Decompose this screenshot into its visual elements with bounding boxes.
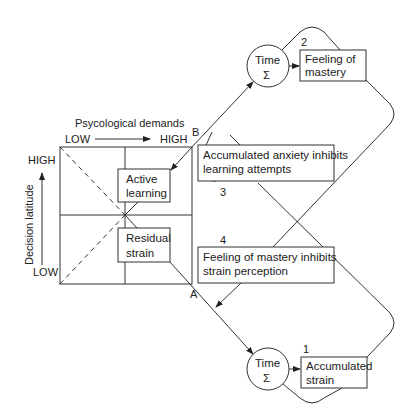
time-node-top-label: Time	[255, 54, 280, 66]
dashed-diagonal-upper	[60, 147, 125, 215]
y-axis-title: Decision latitude	[23, 184, 35, 265]
sigma-icon-top: Σ	[263, 69, 270, 81]
strain-line1: Accumulated	[306, 360, 372, 372]
box3-top-connector	[230, 135, 240, 145]
mastery-line1: Feeling of	[305, 53, 356, 65]
path-b-return-arrow	[171, 147, 192, 170]
mastery-line2: mastery	[305, 66, 346, 78]
active-learning-line1: Active	[126, 173, 157, 185]
y-axis-high-label: HIGH	[28, 154, 56, 166]
dashed-diagonal-lower	[60, 215, 125, 284]
anxiety-number: 3	[220, 186, 226, 198]
x-axis-high-label: HIGH	[160, 133, 188, 145]
path-b-label: B	[192, 126, 199, 138]
box4-inhibit-arrow	[216, 283, 241, 307]
anxiety-line2: learning attempts	[203, 163, 291, 175]
strain-line2: strain	[306, 374, 334, 386]
path-a-label: A	[190, 288, 198, 300]
mastery-number: 2	[301, 36, 307, 48]
x-axis-low-label: LOW	[65, 133, 91, 145]
mastery-inhibit-line1: Feeling of mastery inhibits	[203, 251, 337, 263]
diagonal-to-active	[125, 202, 138, 215]
top-loop-curve	[282, 27, 340, 50]
path-b-line	[192, 82, 253, 147]
y-axis-low-label: LOW	[33, 266, 59, 278]
diagonal-to-residual	[125, 215, 137, 228]
residual-strain-line1: Residual	[126, 232, 171, 244]
active-learning-line2: learning	[126, 187, 167, 199]
dynamic-demand-control-diagram: Psycological demands LOW HIGH HIGH LOW D…	[0, 0, 415, 418]
sigma-icon-bottom: Σ	[263, 372, 270, 384]
strain-number: 1	[303, 343, 309, 355]
residual-strain-line2: strain	[126, 247, 154, 259]
anxiety-line1: Accumulated anxiety inhibits	[203, 149, 348, 161]
mastery-inhibit-number: 4	[220, 234, 226, 246]
x-axis-title: Psycological demands	[75, 117, 185, 129]
diagram-svg: Psycological demands LOW HIGH HIGH LOW D…	[0, 0, 415, 418]
mastery-inhibit-line2: strain perception	[203, 265, 288, 277]
time-node-bottom-label: Time	[255, 357, 280, 369]
